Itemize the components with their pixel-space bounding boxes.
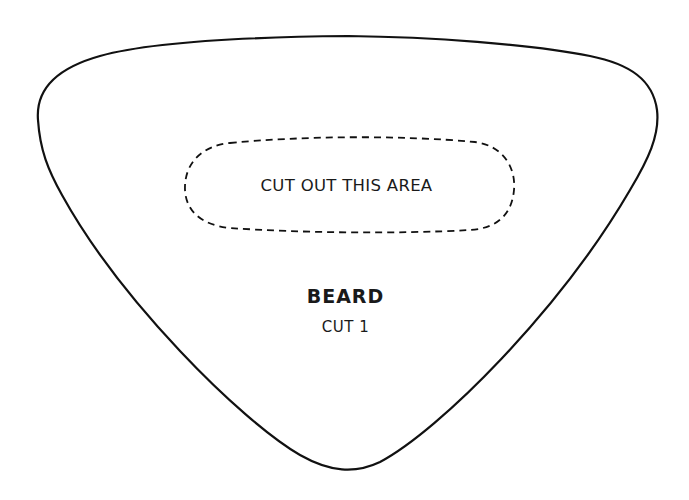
piece-name: BEARD — [1, 285, 689, 307]
cutout-label: CUT OUT THIS AREA — [2, 176, 689, 195]
beard-outline — [0, 0, 689, 500]
cut-instruction: CUT 1 — [1, 318, 689, 336]
outer-cut-line — [38, 36, 658, 470]
